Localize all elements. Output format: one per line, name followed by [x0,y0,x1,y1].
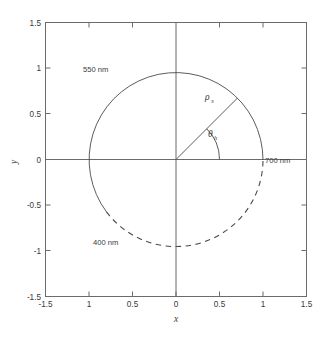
symbol-theta-h: θ h [208,128,217,141]
symbol-theta-h-glyph: θ [208,128,213,139]
x-tick-label-6: 1.5 [301,300,313,309]
y-tick-label-1: -1 [34,247,42,256]
saturation-vector-line [176,98,238,160]
figure-container: -1.5 1 0.5 0 0.5 1 1.5 1.5 1 0.5 0 -0.5 … [0,0,328,337]
x-tick-label-5: 1 [261,300,266,309]
y-tick-label-0: -1.5 [27,293,42,302]
symbol-rho-s-subscript: s [211,97,214,104]
x-tick-label-2: 0.5 [127,300,139,309]
x-tick-label-3: 0 [174,300,179,309]
symbol-theta-h-subscript: h [214,134,217,141]
x-axis-title: x [173,314,179,324]
y-tick-label-6: 1.5 [30,19,42,28]
x-tick-label-4: 0.5 [214,300,226,309]
y-tick-label-5: 1 [36,64,41,73]
symbol-rho-s: ρ s [204,91,214,104]
symbol-rho-s-glyph: ρ [204,91,210,102]
hue-saturation-circle-chart: -1.5 1 0.5 0 0.5 1 1.5 1.5 1 0.5 0 -0.5 … [0,0,328,337]
y-tick-label-2: -0.5 [27,201,42,210]
y-axis-ticks [46,23,51,297]
wavelength-550-label: 550 nm [83,65,108,74]
wavelength-400-label: 400 nm [93,238,118,247]
purple-line-dashed-curve [107,160,264,247]
x-axis-ticks [46,292,307,297]
y-tick-label-3: 0 [36,156,41,165]
y-axis-title: y [9,159,19,165]
y-tick-label-4: 0.5 [30,110,42,119]
wavelength-700-label: 700 nm [265,156,290,165]
x-tick-label-1: 1 [87,300,92,309]
